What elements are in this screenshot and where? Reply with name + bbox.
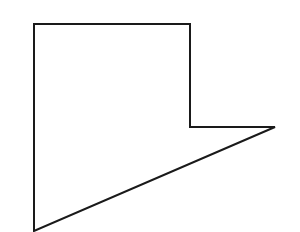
figure-canvas bbox=[0, 0, 300, 232]
polygon-figure bbox=[0, 0, 300, 232]
figure-background bbox=[0, 0, 300, 232]
